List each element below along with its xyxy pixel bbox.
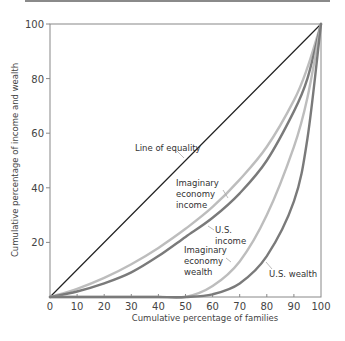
annotation-imaginary-wealth-1: Imaginary [184,245,227,255]
y-tick-label: 100 [25,19,44,30]
leader-line [208,226,214,230]
y-tick-label: 60 [31,128,44,139]
x-tick-label: 40 [152,301,165,312]
x-tick-label: 90 [288,301,301,312]
leader-line [266,262,272,269]
lorenz-curve-chart: 010203040506070809010020406080100 Line o… [0,0,345,341]
leader-line [226,258,231,262]
x-tick-label: 0 [47,301,53,312]
x-tick-label: 30 [125,301,138,312]
x-tick-label: 20 [98,301,111,312]
x-tick-label: 50 [179,301,192,312]
x-axis-label: Cumulative percentage of families [132,313,279,323]
y-axis-label: Cumulative percentage of income and weal… [10,63,20,257]
x-tick-label: 60 [206,301,219,312]
annotation-line-of-equality: Line of equality [135,143,201,153]
annotation-imaginary-income-1: Imaginary [176,178,219,188]
annotation-imaginary-wealth-2: economy [184,256,223,266]
x-tick-label: 10 [71,301,84,312]
annotation-imaginary-wealth-3: wealth [184,267,212,277]
x-tick-label: 70 [233,301,246,312]
annotation-imaginary-income-2: economy [176,189,215,199]
annotation-imaginary-income-3: income [176,200,207,210]
annotation-us-income-1: U.S. [215,225,232,235]
x-tick-label: 100 [311,301,330,312]
annotation-us-wealth: U.S. wealth [269,269,317,279]
y-tick-label: 80 [31,74,44,85]
y-tick-label: 20 [31,237,44,248]
y-tick-label: 40 [31,183,44,194]
x-tick-label: 80 [260,301,273,312]
